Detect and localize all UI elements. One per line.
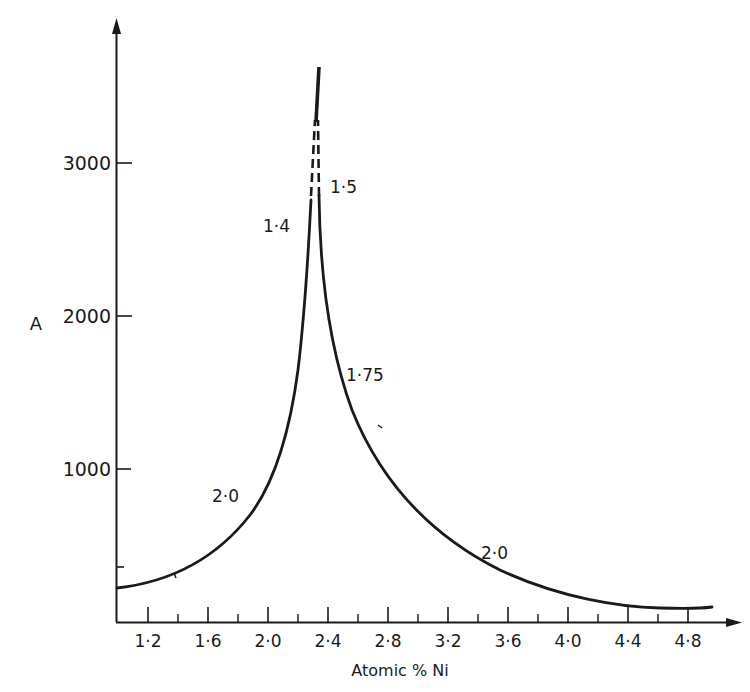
curve-marks xyxy=(174,425,382,578)
x-axis-arrow-icon xyxy=(726,618,742,627)
y-ticks xyxy=(116,163,132,567)
chart: 3000 2000 1000 A 1·2 1·6 2·0 2·4 2·8 3·2… xyxy=(0,0,750,692)
x-tick-label: 4·8 xyxy=(674,631,701,651)
x-tick-label: 2·8 xyxy=(374,631,401,651)
annotation-right-mid: 1·75 xyxy=(346,365,384,385)
x-ticks-minor xyxy=(178,614,658,622)
curve-right-branch xyxy=(319,195,712,608)
x-tick-labels: 1·2 1·6 2·0 2·4 2·8 3·2 3·6 4·0 4·4 4·8 xyxy=(134,631,701,651)
y-axis-label: A xyxy=(30,313,43,334)
x-tick-label: 4·4 xyxy=(614,631,641,651)
x-tick-label: 2·4 xyxy=(314,631,341,651)
curve-left-branch xyxy=(117,200,311,588)
x-tick-label: 3·2 xyxy=(434,631,461,651)
y-axis-arrow-icon xyxy=(112,18,121,34)
x-tick-label: 1·2 xyxy=(134,631,161,651)
annotation-left-low: 2·0 xyxy=(212,486,239,506)
y-tick-label-3000: 3000 xyxy=(63,152,111,174)
x-tick-label: 1·6 xyxy=(194,631,221,651)
annotation-peak-left: 1·4 xyxy=(263,216,290,236)
x-tick-label: 3·6 xyxy=(494,631,521,651)
x-tick-label: 4·0 xyxy=(554,631,581,651)
annotation-peak-right: 1·5 xyxy=(330,177,357,197)
x-axis-label: Atomic % Ni xyxy=(351,661,448,680)
x-tick-label: 2·0 xyxy=(254,631,281,651)
peak-dashed-extension xyxy=(311,67,319,196)
y-tick-label-1000: 1000 xyxy=(63,458,111,480)
annotation-right-low: 2·0 xyxy=(481,543,508,563)
y-tick-label-2000: 2000 xyxy=(63,305,111,327)
